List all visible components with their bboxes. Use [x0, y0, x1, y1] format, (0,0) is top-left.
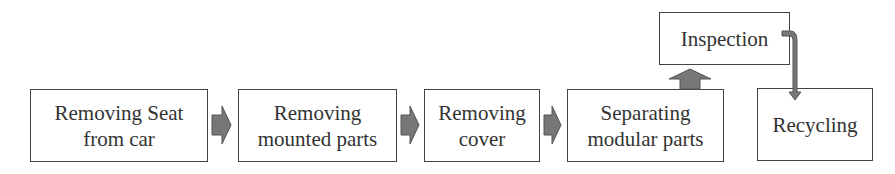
arrow-right-icon	[212, 106, 231, 144]
arrow-up-icon	[669, 69, 711, 89]
process-flow-diagram: Removing Seat from car Removing mounted …	[0, 0, 895, 174]
arrow-right-icon	[401, 106, 419, 144]
arrow-right-icon	[544, 106, 561, 144]
arrows-layer	[0, 0, 895, 174]
arrow-bent-down-icon	[782, 31, 801, 100]
